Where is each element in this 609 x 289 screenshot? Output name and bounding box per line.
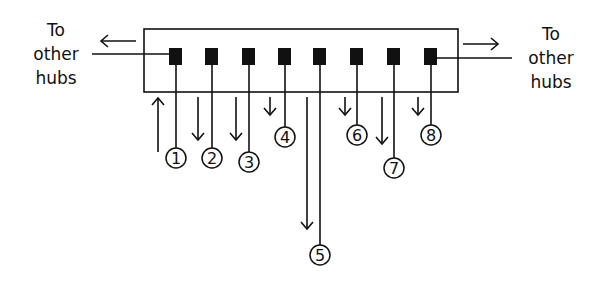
down-arrow-icon <box>376 97 388 144</box>
left-label-line-1: To <box>22 18 90 42</box>
port-5: 5 <box>301 48 330 265</box>
port-7: 7 <box>376 48 404 178</box>
left-hubs-label: To other hubs <box>22 18 90 90</box>
down-arrow-icon <box>412 97 424 115</box>
hub-box <box>144 29 458 92</box>
port-number-label: 3 <box>244 153 254 172</box>
left-label-line-3: hubs <box>22 66 90 90</box>
right-arrow-icon <box>463 38 498 50</box>
left-label-line-2: other <box>22 42 90 66</box>
port-1: 1 <box>152 48 186 168</box>
port-6: 6 <box>339 48 367 145</box>
right-label-line-2: other <box>517 46 585 70</box>
right-label-line-3: hubs <box>517 70 585 94</box>
port-number-label: 7 <box>389 159 399 178</box>
port-8: 8 <box>412 48 441 145</box>
down-arrow-icon <box>264 97 276 115</box>
port-number-label: 6 <box>352 126 362 145</box>
right-hubs-label: To other hubs <box>517 22 585 94</box>
port-number-label: 5 <box>315 246 325 265</box>
down-arrow-icon <box>192 97 204 140</box>
up-arrow-icon <box>152 98 164 152</box>
port-number-label: 2 <box>207 149 217 168</box>
port-number-label: 1 <box>171 149 181 168</box>
port-2: 2 <box>192 48 222 168</box>
down-arrow-icon <box>339 97 351 115</box>
left-arrow-icon <box>101 35 136 47</box>
port-4: 4 <box>264 48 295 147</box>
port-number-label: 8 <box>426 126 436 145</box>
down-arrow-icon <box>230 97 242 140</box>
down-arrow-icon <box>301 97 313 229</box>
port-3: 3 <box>230 48 259 172</box>
port-number-label: 4 <box>280 128 290 147</box>
right-label-line-1: To <box>517 22 585 46</box>
